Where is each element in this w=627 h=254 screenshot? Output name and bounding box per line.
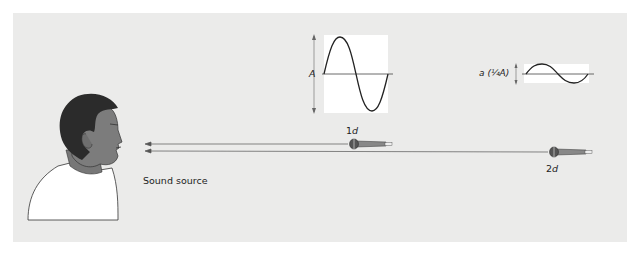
distance-label-far: 2d [546, 164, 558, 174]
distance-variable: d [352, 125, 358, 136]
distance-variable: d [552, 163, 558, 174]
sine-wave-icon [515, 63, 595, 85]
arrow-icon [145, 142, 548, 153]
sound-source-label: Sound source [143, 176, 207, 186]
amplitude-label-far: a (¼A) [479, 69, 509, 78]
person-icon [28, 94, 122, 220]
microphone-icon [550, 147, 593, 157]
distance-label-near: 1d [346, 126, 358, 136]
microphone-icon [350, 139, 393, 149]
sine-wave-icon [312, 34, 393, 114]
amplitude-label-near: A [309, 69, 316, 79]
diagram-canvas [0, 0, 627, 254]
